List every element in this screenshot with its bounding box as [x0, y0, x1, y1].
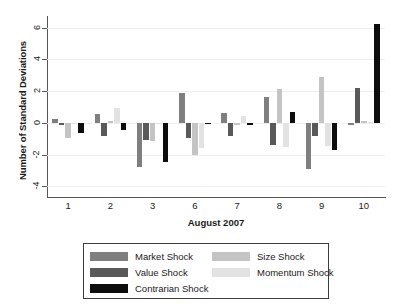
legend-label: Value Shock [135, 268, 188, 278]
legend-entry: Value Shock [90, 265, 208, 280]
legend-label: Market Shock [135, 252, 193, 262]
bar [355, 88, 361, 123]
bar [78, 123, 84, 133]
bar [264, 97, 270, 123]
y-axis-tick-label: 4 [20, 54, 40, 63]
x-axis-tick-label: 1 [53, 200, 83, 211]
bar [72, 123, 78, 124]
bar [283, 123, 289, 147]
y-axis-tick [42, 155, 47, 156]
gridline [47, 28, 385, 29]
legend-column-right: Size ShockMomentum Shock [212, 249, 334, 281]
bar [306, 123, 312, 169]
bar [186, 123, 192, 138]
y-axis-tick-label: 0 [20, 118, 40, 127]
bar [156, 123, 162, 124]
y-axis-tick-label: 2 [20, 86, 40, 95]
x-axis-tick-label: 2 [95, 200, 125, 211]
bar [241, 116, 247, 123]
gridline [47, 155, 385, 156]
plot-area [47, 18, 385, 196]
bar [247, 123, 253, 125]
bar [332, 123, 338, 150]
gridline [47, 59, 385, 60]
bar [374, 24, 380, 123]
bar [179, 93, 185, 123]
gridline [47, 91, 385, 92]
legend-entry: Market Shock [90, 249, 208, 264]
legend-label: Momentum Shock [257, 268, 334, 278]
legend-entry: Contrarian Shock [90, 281, 208, 296]
y-axis-tick-label: -2 [20, 150, 40, 159]
bar [108, 121, 114, 123]
bar [52, 119, 58, 123]
x-axis-title: August 2007 [47, 217, 385, 228]
y-axis-tick [42, 123, 47, 124]
legend-swatch [212, 252, 250, 261]
bar [114, 108, 120, 123]
bar [368, 122, 374, 123]
legend-entry: Size Shock [212, 249, 334, 264]
y-axis-tick-label: 6 [20, 23, 40, 32]
y-axis-tick [42, 91, 47, 92]
legend-column-left: Market ShockValue ShockContrarian Shock [90, 249, 208, 297]
bar [228, 123, 234, 137]
bar [290, 112, 296, 123]
bar [95, 114, 101, 122]
bar [277, 89, 283, 123]
bar [192, 123, 198, 156]
bar [150, 123, 156, 141]
chart-figure: Number of Standard Deviations -4-2024612… [0, 0, 411, 306]
bar [59, 123, 65, 125]
x-axis-tick-label: 6 [180, 200, 210, 211]
x-axis-tick-label: 8 [264, 200, 294, 211]
bar [121, 123, 127, 130]
bar [199, 123, 205, 148]
bar [270, 123, 276, 145]
legend-swatch [212, 268, 250, 277]
bar [101, 123, 107, 137]
legend-swatch [90, 252, 128, 261]
bar [348, 123, 354, 125]
bar [361, 121, 367, 123]
bar [163, 123, 169, 162]
x-axis-tick-label: 7 [222, 200, 252, 211]
x-axis-tick-label: 10 [349, 200, 379, 211]
bar [319, 77, 325, 123]
y-axis-tick [42, 59, 47, 60]
bar [312, 123, 318, 136]
legend-swatch [90, 268, 128, 277]
x-axis-tick-label: 9 [307, 200, 337, 211]
bar [65, 123, 71, 138]
bar [234, 123, 240, 125]
bar [325, 123, 331, 146]
y-axis-tick [42, 28, 47, 29]
bar [205, 123, 211, 124]
legend-label: Size Shock [257, 252, 305, 262]
chart-legend: Market ShockValue ShockContrarian Shock … [83, 243, 329, 299]
x-axis-tick-label: 3 [138, 200, 168, 211]
y-axis-tick-label: -4 [20, 181, 40, 190]
legend-entry: Momentum Shock [212, 265, 334, 280]
bar [143, 123, 149, 140]
x-axis-line [47, 197, 386, 198]
bar [137, 123, 143, 167]
y-axis-tick [42, 186, 47, 187]
legend-swatch [90, 284, 128, 293]
bar [221, 113, 227, 123]
gridline [47, 186, 385, 187]
legend-label: Contrarian Shock [135, 284, 208, 294]
